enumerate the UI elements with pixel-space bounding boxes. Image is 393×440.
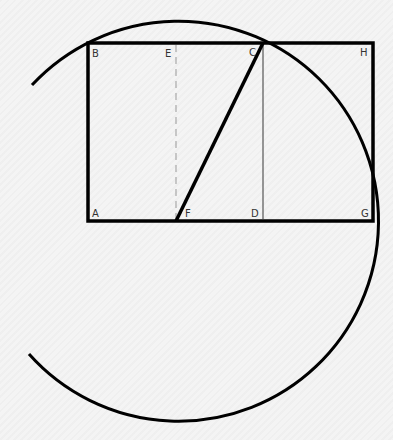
label-g: G — [361, 208, 369, 219]
label-f: F — [185, 208, 191, 219]
diagonal-fc — [176, 43, 263, 221]
diagram-canvas: B E C H A F D G — [0, 0, 393, 440]
label-b: B — [92, 48, 99, 59]
label-a: A — [92, 208, 99, 219]
label-h: H — [360, 47, 368, 58]
label-c: C — [249, 47, 256, 58]
label-e: E — [165, 48, 171, 59]
golden-rectangle-diagram: B E C H A F D G — [0, 0, 393, 440]
golden-rectangle — [88, 43, 373, 221]
label-d: D — [251, 208, 259, 219]
